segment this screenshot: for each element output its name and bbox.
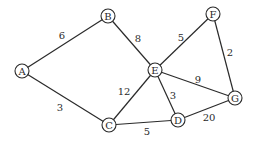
node-c: C bbox=[102, 118, 116, 132]
node-a: A bbox=[15, 64, 29, 78]
edge-weight-e-f: 5 bbox=[178, 32, 184, 43]
edge-weight-a-b: 6 bbox=[59, 30, 65, 41]
node-b: B bbox=[101, 9, 115, 23]
node-g: G bbox=[228, 91, 242, 105]
edge-a-c bbox=[22, 71, 109, 125]
edge-weight-f-g: 2 bbox=[227, 47, 233, 58]
node-label: G bbox=[231, 93, 239, 104]
edge-weight-c-d: 5 bbox=[144, 126, 150, 137]
edge-weight-e-d: 3 bbox=[170, 90, 176, 101]
node-label: D bbox=[174, 115, 182, 126]
node-f: F bbox=[206, 7, 220, 21]
edge-weight-e-g: 9 bbox=[195, 74, 201, 85]
node-label: C bbox=[105, 120, 113, 131]
edge-b-e bbox=[108, 16, 155, 70]
node-label: A bbox=[17, 66, 26, 77]
edge-weight-c-e: 12 bbox=[118, 86, 131, 97]
edge-weight-d-g: 20 bbox=[203, 112, 216, 123]
edge-a-b bbox=[22, 16, 108, 71]
edge-weight-b-e: 8 bbox=[135, 33, 141, 44]
edge-weight-a-c: 3 bbox=[57, 102, 63, 113]
edge-c-d bbox=[109, 120, 178, 125]
edge-weights-layer: 638125539220 bbox=[57, 30, 233, 137]
node-label: E bbox=[151, 65, 158, 76]
node-label: B bbox=[104, 11, 111, 22]
node-d: D bbox=[171, 113, 185, 127]
edges-layer bbox=[22, 14, 235, 125]
weighted-graph-diagram: 638125539220 ABCDEFG bbox=[0, 0, 254, 141]
edge-c-e bbox=[109, 70, 155, 125]
node-e: E bbox=[148, 63, 162, 77]
node-label: F bbox=[210, 9, 217, 20]
